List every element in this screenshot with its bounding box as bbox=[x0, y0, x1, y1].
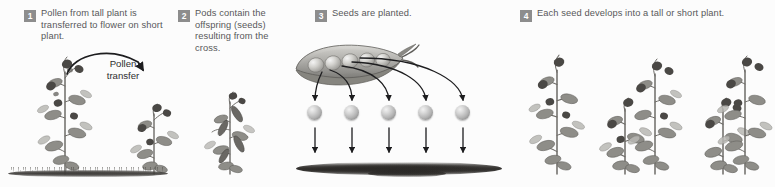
seed-5 bbox=[455, 105, 470, 120]
ground-strip-panel-1 bbox=[8, 170, 168, 177]
seed-2 bbox=[344, 105, 359, 120]
pollen-transfer-arrow bbox=[0, 0, 172, 187]
seed-1 bbox=[307, 105, 322, 120]
offspring-plant-5 bbox=[710, 56, 775, 174]
panel-2-caption: 2 Pods contain the offspring (seeds) res… bbox=[178, 8, 288, 54]
panel-3: 3 Seeds are planted. bbox=[290, 0, 508, 187]
panel-4-caption: 4 Each seed develops into a tall or shor… bbox=[520, 8, 775, 22]
panel-2-step-badge: 2 bbox=[178, 10, 190, 22]
offspring-plant-3 bbox=[620, 56, 690, 174]
panel-4-caption-text: Each seed develops into a tall or short … bbox=[537, 8, 724, 20]
seed-dispersal-arrows bbox=[290, 0, 508, 187]
panel-4-step-badge: 4 bbox=[520, 10, 532, 22]
pea-plant-cross-diagram: 1 Pollen from tall plant is transferred … bbox=[0, 0, 775, 187]
panel-2-caption-text: Pods contain the offspring (seeds) resul… bbox=[195, 8, 288, 54]
panel-4: 4 Each seed develops into a tall or shor… bbox=[508, 0, 775, 187]
seed-4 bbox=[418, 105, 433, 120]
pollen-transfer-label-line1: Pollen bbox=[92, 58, 154, 70]
seed-3 bbox=[381, 105, 396, 120]
pod-bearing-pea-plant bbox=[202, 92, 258, 174]
pollen-transfer-label-line2: transfer bbox=[92, 70, 154, 82]
pollen-transfer-label: Pollen transfer bbox=[92, 58, 154, 81]
soil-strip-panel-3 bbox=[296, 162, 502, 175]
offspring-plant-1 bbox=[522, 54, 592, 174]
panel-2: 2 Pods contain the offspring (seeds) res… bbox=[172, 0, 290, 187]
panel-1: 1 Pollen from tall plant is transferred … bbox=[0, 0, 172, 187]
